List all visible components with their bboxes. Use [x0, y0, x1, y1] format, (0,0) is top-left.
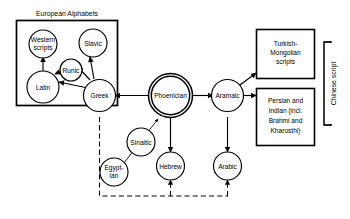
node-label-runic: Runic — [63, 67, 81, 74]
box-label-persian-indian-line2: Indian (incl. — [269, 107, 303, 115]
node-label-western-scripts-line1: Western — [31, 36, 56, 43]
writing-systems-diagram: European Alphabets Western scripts Slavi… — [0, 0, 350, 219]
node-label-hebrew: Hebrew — [159, 163, 182, 170]
diagram-canvas: European Alphabets Western scripts Slavi… — [0, 0, 350, 219]
box-label-persian-indian-line3: Brahmi and — [269, 117, 303, 124]
box-label-turkish-mongolian-line3: scripts — [276, 58, 296, 66]
node-label-greek: Greek — [91, 92, 110, 99]
chinese-script-label: Chinese script — [330, 62, 338, 106]
european-alphabets-label: European Alphabets — [36, 10, 99, 18]
box-label-persian-indian-line1: Persian and — [268, 97, 304, 104]
node-label-aramaic: Aramaic — [215, 92, 240, 99]
node-label-arabic: Arabic — [218, 163, 237, 170]
node-label-latin: Latin — [36, 84, 51, 91]
node-label-phoenician: Phoenician — [154, 92, 187, 99]
box-label-turkish-mongolian-line1: Turkish- — [274, 40, 298, 47]
node-label-western-scripts-line2: scripts — [33, 44, 53, 52]
edge-greek-to-slavic — [90, 57, 94, 79]
edge-aramaic-to-turkish-mongolian — [240, 73, 256, 85]
node-label-sinaitic: Sinaitic — [130, 139, 152, 146]
edge-greek-to-latin — [59, 82, 88, 88]
box-label-turkish-mongolian-line2: Mongolian — [270, 49, 301, 57]
node-label-egyptian-line2: ian — [110, 172, 119, 179]
node-label-slavic: Slavic — [84, 40, 102, 47]
box-label-persian-indian-line4: Kharosthi) — [270, 127, 300, 135]
node-label-egyptian-line1: Egypt- — [104, 164, 123, 172]
